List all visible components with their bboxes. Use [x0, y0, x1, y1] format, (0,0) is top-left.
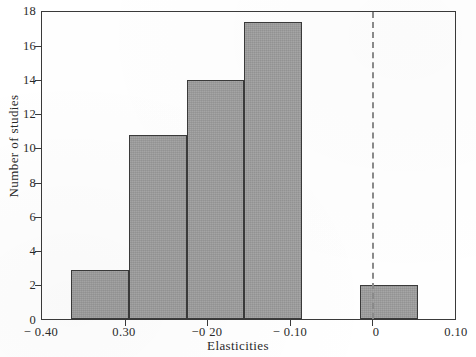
x-tick-mark-neg020 [207, 319, 208, 326]
y-tick-label-18: 18 [11, 4, 36, 19]
x-tick-mark-neg010 [290, 319, 291, 326]
y-tick-mark-2 [35, 285, 42, 286]
y-tick-label-12: 12 [11, 107, 36, 122]
y-tick-mark-10 [35, 148, 42, 149]
histogram-bar-4 [244, 22, 302, 319]
y-tick-label-14: 14 [11, 73, 36, 88]
zero-reference-line [372, 12, 374, 319]
x-tick-mark-zero [372, 319, 373, 326]
y-tick-label-10: 10 [11, 141, 36, 156]
y-tick-mark-6 [35, 217, 42, 218]
y-tick-mark-8 [35, 183, 42, 184]
y-tick-mark-14 [35, 80, 42, 81]
histogram-figure: Number of studies 0 2 4 6 8 10 12 14 16 … [0, 0, 476, 357]
y-tick-label-16: 16 [11, 39, 36, 54]
histogram-bar-2 [129, 135, 187, 319]
y-tick-label-2: 2 [18, 278, 36, 293]
y-tick-label-6: 6 [18, 210, 36, 225]
y-tick-label-8: 8 [18, 176, 36, 191]
x-tick-mark-neg030 [125, 319, 126, 326]
histogram-bar-5 [360, 285, 418, 319]
histogram-bar-3 [187, 80, 245, 319]
y-tick-label-4: 4 [18, 244, 36, 259]
plot-area [41, 11, 456, 320]
y-tick-mark-12 [35, 114, 42, 115]
histogram-bar-1 [71, 270, 129, 319]
y-tick-mark-16 [35, 46, 42, 47]
y-tick-mark-4 [35, 251, 42, 252]
x-axis-title: Elasticities [0, 338, 476, 354]
